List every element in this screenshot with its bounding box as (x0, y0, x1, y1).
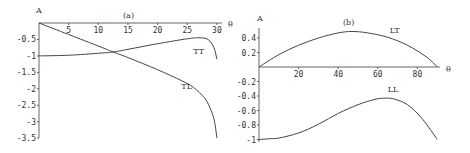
panel-b-curves: LTLL (259, 26, 437, 140)
y-tick-label: -1 (26, 52, 36, 61)
panel-a-title: (a) (123, 11, 134, 20)
panel-b-y-label: A (256, 14, 263, 23)
y-tick-label: -0.6 (237, 107, 256, 116)
y-tick-label: -0.8 (237, 121, 256, 130)
series-tt-label: TT (193, 47, 204, 56)
panel-a-y-label: A (35, 6, 42, 15)
y-tick-label: -2 (26, 85, 36, 94)
panel-a-curves: TTTL (39, 23, 217, 138)
series-ll-line (259, 98, 437, 139)
x-tick-label: 30 (212, 26, 222, 35)
figure: A (a) θ 51015202530-0.5-1-1.5-2-2.5-3-3.… (0, 0, 470, 153)
panel-a-x-label: θ (228, 20, 233, 29)
y-tick-label: -0.2 (237, 78, 256, 87)
x-tick-label: 40 (333, 70, 343, 79)
panel-b-axes: 204060800.40.2-0.2-0.4-0.6-0.8-1 (237, 28, 440, 145)
series-ll-label: LL (388, 85, 399, 94)
x-tick-label: 20 (153, 26, 163, 35)
x-tick-label: 20 (294, 70, 304, 79)
y-tick-label: -2.5 (17, 101, 36, 110)
series-tl-label: TL (181, 82, 192, 91)
y-tick-label: -0.4 (237, 92, 256, 101)
series-lt-label: LT (390, 26, 401, 35)
x-tick-label: 25 (182, 26, 192, 35)
y-tick-label: -1.5 (17, 68, 36, 77)
y-tick-label: 0.2 (242, 49, 257, 58)
panel-b: A (b) θ 204060800.40.2-0.2-0.4-0.6-0.8-1… (237, 14, 451, 145)
y-tick-label: -0.5 (17, 35, 36, 44)
x-tick-label: 15 (123, 26, 133, 35)
y-tick-label: -3.5 (17, 134, 36, 143)
panel-b-x-label: θ (446, 65, 451, 74)
series-tt-line (39, 38, 217, 59)
series-lt-line (259, 31, 437, 67)
y-tick-label: -3 (26, 118, 36, 127)
panel-a: A (a) θ 51015202530-0.5-1-1.5-2-2.5-3-3.… (17, 6, 233, 143)
y-tick-label: -1 (246, 136, 256, 145)
x-tick-label: 60 (373, 70, 383, 79)
x-tick-label: 80 (413, 70, 423, 79)
x-tick-label: 10 (93, 26, 103, 35)
panel-b-title: (b) (343, 18, 354, 27)
y-tick-label: 0.4 (242, 34, 257, 43)
series-tl-line (39, 23, 217, 138)
